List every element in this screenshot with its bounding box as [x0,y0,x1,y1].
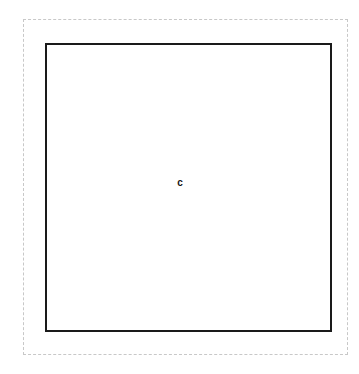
center-label: c [173,176,187,190]
figure-canvas: c [0,0,359,374]
square-outline [45,43,332,332]
